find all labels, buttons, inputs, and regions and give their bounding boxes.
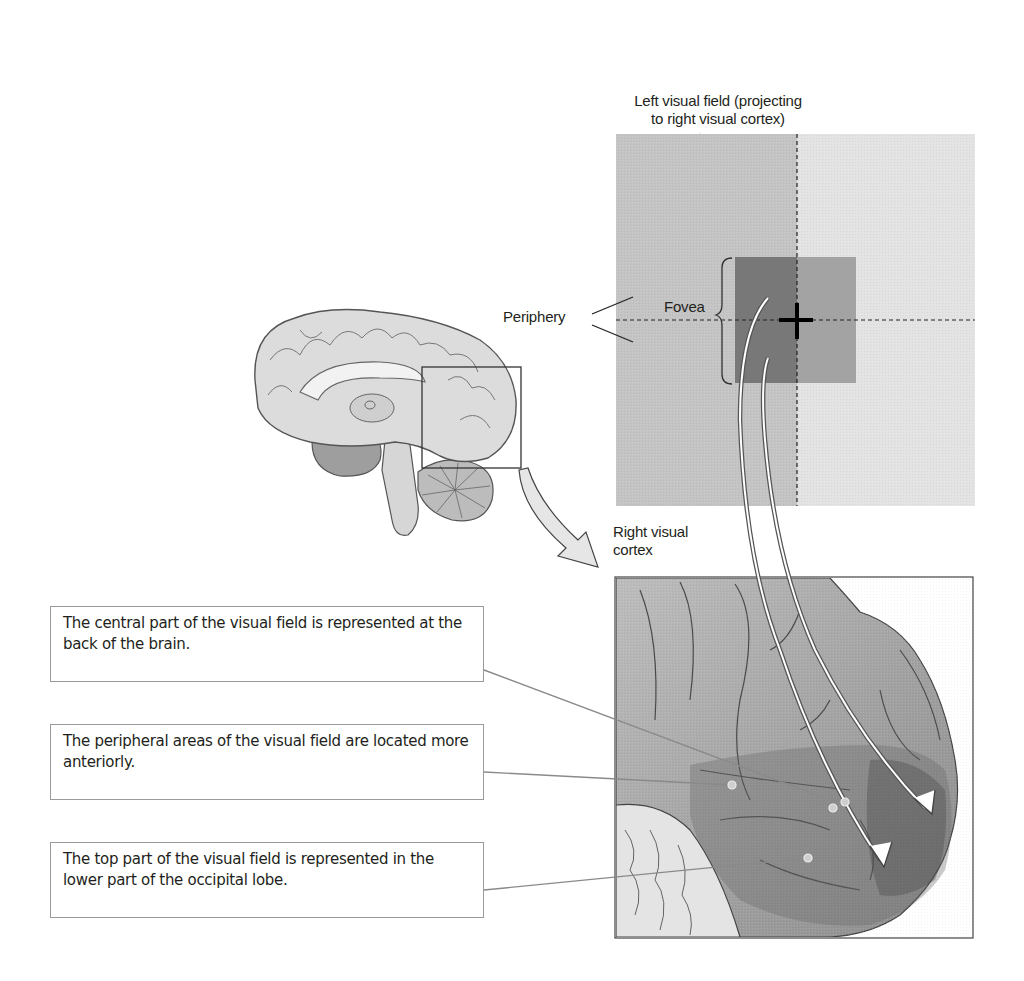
diagram-graphics [0, 0, 1024, 981]
visual-field-title-line1: Left visual field (projecting [628, 92, 808, 110]
cortex-closeup [615, 577, 973, 938]
right-visual-cortex-label: Right visual cortex [613, 523, 733, 559]
foveal-representation [867, 759, 947, 896]
cortex-label-line2: cortex [613, 541, 733, 559]
visual-field-title: Left visual field (projecting to right v… [628, 92, 808, 128]
brain-sagittal-illustration [255, 310, 598, 567]
callout-peripheral-field: The peripheral areas of the visual field… [50, 724, 484, 800]
periphery-label: Periphery [503, 308, 565, 326]
visual-field-title-line2: to right visual cortex) [628, 110, 808, 128]
fovea-label: Fovea [664, 298, 705, 316]
cortex-label-line1: Right visual [613, 523, 733, 541]
callout-central-field: The central part of the visual field is … [50, 606, 484, 682]
visual-field-diagram [592, 134, 975, 506]
zoom-arrow [519, 468, 598, 567]
callout-top-field: The top part of the visual field is repr… [50, 842, 484, 918]
